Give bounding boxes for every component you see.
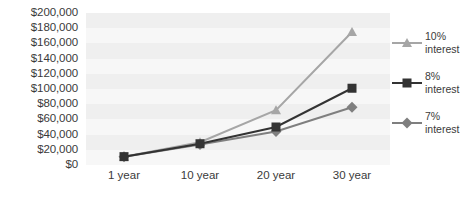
series-line [124,88,352,156]
y-axis-tick-label: $40,000 [37,129,78,141]
x-axis: 1 year10 year20 year30 year [86,170,390,190]
legend-label: 10%interest [425,30,475,55]
line-chart: $200,000$180,000$160,000$140,000$120,000… [0,0,475,207]
x-axis-tick-label: 10 year [181,170,219,182]
legend-label: 8%interest [425,70,475,95]
legend-word: interest [425,123,475,136]
legend-percent: 7% [425,110,475,123]
y-axis: $200,000$180,000$160,000$140,000$120,000… [0,13,82,165]
y-axis-tick-label: $0 [65,159,78,171]
legend-percent: 10% [425,30,475,43]
data-point-marker [347,27,357,36]
x-axis-tick-label: 30 year [333,170,371,182]
y-axis-tick-label: $160,000 [31,38,78,50]
data-point-marker [348,84,357,93]
data-point-marker [196,139,205,148]
y-axis-tick-label: $60,000 [37,114,78,126]
y-axis-tick-label: $100,000 [31,83,78,95]
y-axis-tick-label: $180,000 [31,22,78,34]
series-diamond [119,102,358,162]
data-point-marker [272,123,281,132]
legend-label: 7%interest [425,110,475,135]
x-axis-tick-label: 20 year [257,170,295,182]
legend-percent: 8% [425,70,475,83]
series-square [120,84,357,161]
y-axis-tick-label: $120,000 [31,68,78,80]
legend-item[interactable]: 10%interest [392,30,475,64]
legend-triangle-icon [392,36,422,50]
plot-area [86,13,390,165]
legend-square-icon [392,76,422,90]
legend-word: interest [425,83,475,96]
data-point-marker [347,102,358,113]
legend-word: interest [425,43,475,56]
series-triangle [119,27,357,161]
legend-item[interactable]: 7%interest [392,110,475,144]
y-axis-tick-label: $20,000 [37,144,78,156]
chart-legend: 10%interest8%interest7%interest [392,30,475,160]
data-point-marker [120,152,129,161]
y-axis-tick-label: $140,000 [31,53,78,65]
legend-diamond-icon [392,116,422,130]
y-axis-tick-label: $200,000 [31,7,78,19]
legend-item[interactable]: 8%interest [392,70,475,104]
x-axis-tick-label: 1 year [108,170,140,182]
y-axis-tick-label: $80,000 [37,98,78,110]
plot-series-svg [86,13,390,165]
